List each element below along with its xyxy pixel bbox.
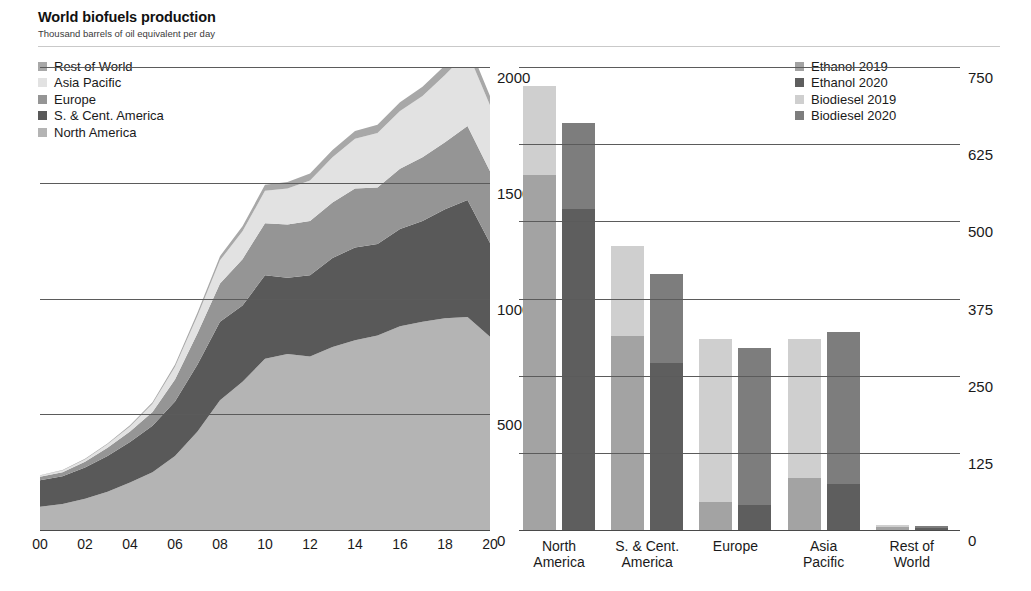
bar-segment [738, 505, 771, 530]
y-axis-tick-label: 750 [968, 70, 993, 85]
gridline [40, 67, 490, 68]
y-axis-tick-label: 625 [968, 147, 993, 162]
category-label-line1: North [533, 539, 584, 555]
y-axis-tick-label: 125 [968, 456, 993, 471]
gridline [40, 530, 490, 531]
x-axis-category-label: Rest ofWorld [890, 539, 934, 570]
x-axis-category-label: Europe [713, 539, 758, 555]
y-axis-tick-label: 500 [968, 224, 993, 239]
gridline [519, 453, 960, 454]
x-axis-category-label: NorthAmerica [533, 539, 584, 570]
stacked-area-chart [40, 67, 490, 530]
y-axis-tick-label: 250 [968, 379, 993, 394]
bar-segment [915, 526, 948, 528]
header-divider [38, 46, 1000, 47]
bar-segment [827, 484, 860, 530]
gridline [519, 221, 960, 222]
x-axis-category-label: AsiaPacific [803, 539, 844, 570]
category-label-line2: Pacific [803, 555, 844, 571]
bar-segment [523, 175, 556, 530]
gridline [519, 530, 960, 531]
x-axis-tick-label: 12 [302, 537, 318, 553]
y-axis-tick-label: 0 [968, 533, 976, 548]
x-axis-tick-label: 08 [212, 537, 228, 553]
category-label-line2: World [890, 555, 934, 571]
page-subtitle: Thousand barrels of oil equivalent per d… [38, 28, 216, 40]
x-axis-tick-label: 20 [482, 537, 498, 553]
x-axis-tick-label: 18 [437, 537, 453, 553]
gridline [519, 67, 960, 68]
category-label-line1: Rest of [890, 539, 934, 555]
gridline [40, 414, 490, 415]
x-axis-tick-label: 02 [77, 537, 93, 553]
gridline [40, 183, 490, 184]
gridline [519, 144, 960, 145]
category-label-line1: Asia [803, 539, 844, 555]
x-axis-tick-label: 00 [32, 537, 48, 553]
bar-segment [738, 348, 771, 505]
bar-segment [827, 332, 860, 483]
x-axis-category-label: S. & Cent.America [615, 539, 679, 570]
bar-segment [562, 123, 595, 209]
bar-segment [788, 478, 821, 530]
chart-header: World biofuels production Thousand barre… [38, 8, 216, 40]
x-axis-tick-label: 16 [392, 537, 408, 553]
x-axis-tick-label: 04 [122, 537, 138, 553]
y-axis-tick-label: 0 [497, 533, 505, 548]
bar-segment [650, 274, 683, 364]
bar-segment [611, 246, 644, 336]
bar-segment [562, 209, 595, 530]
bar-segment [876, 525, 909, 527]
bar-segment [699, 339, 732, 503]
x-axis-tick-label: 10 [257, 537, 273, 553]
bar-segment [650, 363, 683, 530]
x-axis-tick-label: 14 [347, 537, 363, 553]
y-axis-tick-label: 375 [968, 302, 993, 317]
gridline [519, 376, 960, 377]
gridline [40, 299, 490, 300]
gridline [519, 299, 960, 300]
category-label-line2: America [615, 555, 679, 571]
category-label-line1: S. & Cent. [615, 539, 679, 555]
chart-page: World biofuels production Thousand barre… [0, 0, 1031, 591]
bar-segment [611, 336, 644, 530]
page-title: World biofuels production [38, 8, 216, 26]
x-axis-tick-label: 06 [167, 537, 183, 553]
category-label-line1: Europe [713, 539, 758, 555]
bar-segment [699, 502, 732, 530]
grouped-bar-chart [519, 67, 960, 530]
bar-segment [523, 86, 556, 176]
bar-segment [788, 339, 821, 478]
category-label-line2: America [533, 555, 584, 571]
